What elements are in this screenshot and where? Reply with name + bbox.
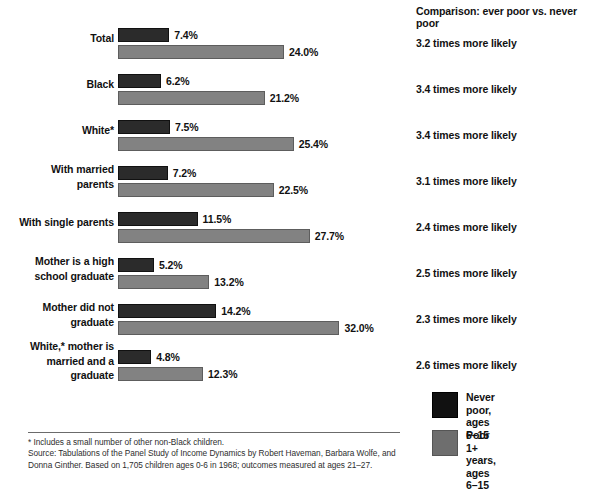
- bar-value-label: 27.7%: [315, 229, 344, 243]
- bar-value-label: 12.3%: [208, 367, 237, 381]
- footnote-text: * Includes a small number of other non-B…: [28, 437, 224, 447]
- bar-group: White,* mother ismarried and agraduate4.…: [0, 344, 603, 390]
- comparison-value: 3.4 times more likely: [416, 129, 517, 141]
- bar-value-label: 13.2%: [214, 275, 243, 289]
- bar-value-label: 11.5%: [203, 212, 232, 226]
- footer-divider: [28, 432, 400, 433]
- bar-group: Black6.2%21.2%3.4 times more likely: [0, 68, 603, 114]
- bar-never: 4.8%: [118, 350, 231, 364]
- bar-rect-never: [118, 304, 216, 318]
- bar-rect-never: [118, 74, 161, 88]
- bar-poor: 12.3%: [118, 367, 283, 381]
- bar-value-label: 7.2%: [173, 166, 197, 180]
- legend-swatch-poor: [432, 430, 458, 456]
- bar-rect-poor: [118, 275, 209, 289]
- bar-rect-poor: [118, 229, 310, 243]
- bar-never: 6.2%: [118, 74, 241, 88]
- bar-rect-poor: [118, 183, 274, 197]
- bar-value-label: 4.8%: [156, 350, 180, 364]
- source-text: Source: Tabulations of the Panel Study o…: [28, 448, 408, 471]
- bar-group: Total7.4%24.0%3.2 times more likely: [0, 22, 603, 68]
- category-label: Black: [0, 77, 114, 92]
- bar-value-label: 22.5%: [279, 183, 308, 197]
- bar-value-label: 14.2%: [221, 304, 250, 318]
- bar-rect-never: [118, 212, 198, 226]
- bar-rect-poor: [118, 45, 284, 59]
- bar-value-label: 25.4%: [299, 137, 328, 151]
- category-label: White,* mother ismarried and agraduate: [0, 339, 114, 383]
- bar-poor: 24.0%: [118, 45, 364, 59]
- bar-never: 11.5%: [118, 212, 278, 226]
- bar-value-label: 6.2%: [166, 74, 190, 88]
- comparison-value: 2.6 times more likely: [416, 359, 517, 371]
- category-label: With single parents: [0, 215, 114, 230]
- bar-never: 7.5%: [118, 120, 250, 134]
- legend-label: Poor 1+ years, ages 6–15: [466, 429, 496, 492]
- bar-poor: 25.4%: [118, 137, 374, 151]
- footer-notes: * Includes a small number of other non-B…: [28, 437, 408, 471]
- bar-group: With single parents11.5%27.7%2.4 times m…: [0, 206, 603, 252]
- bar-value-label: 24.0%: [289, 45, 318, 59]
- bar-poor: 21.2%: [118, 91, 345, 105]
- comparison-value: 3.2 times more likely: [416, 37, 517, 49]
- comparison-value: 3.1 times more likely: [416, 175, 517, 187]
- bar-group: Mother did notgraduate14.2%32.0%2.3 time…: [0, 298, 603, 344]
- category-label: White*: [0, 123, 114, 138]
- plot-area: Total7.4%24.0%3.2 times more likelyBlack…: [0, 22, 603, 390]
- bar-value-label: 7.5%: [175, 120, 199, 134]
- bar-rect-never: [118, 350, 151, 364]
- category-label: Mother did notgraduate: [0, 300, 114, 329]
- comparison-value: 2.3 times more likely: [416, 313, 517, 325]
- bar-poor: 32.0%: [118, 321, 419, 335]
- comparison-value: 2.4 times more likely: [416, 221, 517, 233]
- bar-poor: 27.7%: [118, 229, 390, 243]
- bar-poor: 22.5%: [118, 183, 354, 197]
- bar-never: 5.2%: [118, 258, 234, 272]
- bar-group: Mother is a highschool graduate5.2%13.2%…: [0, 252, 603, 298]
- category-label: With marriedparents: [0, 162, 114, 191]
- bar-value-label: 32.0%: [344, 321, 373, 335]
- bar-value-label: 5.2%: [159, 258, 183, 272]
- bar-rect-poor: [118, 367, 203, 381]
- bar-rect-poor: [118, 137, 294, 151]
- category-label: Mother is a highschool graduate: [0, 254, 114, 283]
- bar-rect-never: [118, 258, 154, 272]
- bar-group: White*7.5%25.4%3.4 times more likely: [0, 114, 603, 160]
- bar-rect-never: [118, 166, 168, 180]
- category-label: Total: [0, 31, 114, 46]
- bar-value-label: 7.4%: [174, 28, 198, 42]
- comparison-value: 3.4 times more likely: [416, 83, 517, 95]
- bar-group: With marriedparents7.2%22.5%3.1 times mo…: [0, 160, 603, 206]
- bar-rect-never: [118, 28, 169, 42]
- legend-swatch-never: [432, 392, 458, 418]
- bar-rect-never: [118, 120, 170, 134]
- bar-never: 7.2%: [118, 166, 248, 180]
- bar-poor: 13.2%: [118, 275, 289, 289]
- bar-rect-poor: [118, 321, 339, 335]
- bar-never: 7.4%: [118, 28, 249, 42]
- bar-never: 14.2%: [118, 304, 296, 318]
- comparison-value: 2.5 times more likely: [416, 267, 517, 279]
- bar-value-label: 21.2%: [270, 91, 299, 105]
- bar-rect-poor: [118, 91, 265, 105]
